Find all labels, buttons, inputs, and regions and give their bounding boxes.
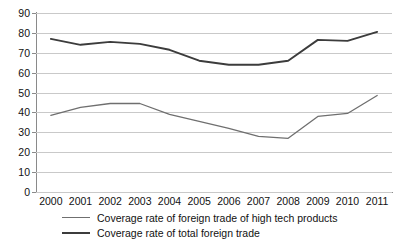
y-tick-label-70: 70: [4, 48, 30, 59]
y-tick-label-10: 10: [4, 167, 30, 178]
y-tick-mark-90: [32, 13, 36, 14]
legend-item-high-tech: Coverage rate of foreign trade of high t…: [62, 210, 400, 225]
y-tick-label-30: 30: [4, 127, 30, 138]
plot-area: [36, 13, 392, 192]
legend-line-swatch-high-tech: [62, 217, 90, 218]
y-tick-label-50: 50: [4, 87, 30, 98]
y-tick-mark-40: [32, 112, 36, 113]
y-tick-label-80: 80: [4, 28, 30, 39]
y-tick-label-20: 20: [4, 147, 30, 158]
y-tick-label-40: 40: [4, 107, 30, 118]
series-line-high-tech: [51, 96, 377, 139]
legend-line-swatch-total-trade: [62, 232, 90, 234]
legend-label-high-tech: Coverage rate of foreign trade of high t…: [97, 212, 337, 224]
y-tick-mark-10: [32, 172, 36, 173]
line-chart: 0102030405060708090 20002001200220032004…: [0, 0, 400, 250]
legend-item-total-trade: Coverage rate of total foreign trade: [62, 225, 400, 240]
y-tick-mark-60: [32, 73, 36, 74]
chart-legend: Coverage rate of foreign trade of high t…: [62, 210, 400, 240]
gridline-0: [36, 192, 392, 193]
y-tick-mark-20: [32, 152, 36, 153]
y-tick-mark-80: [32, 33, 36, 34]
y-tick-mark-50: [32, 93, 36, 94]
y-tick-mark-0: [32, 192, 36, 193]
x-tick-label-2011: 2011: [356, 196, 398, 207]
y-tick-label-90: 90: [4, 8, 30, 19]
y-tick-mark-30: [32, 132, 36, 133]
legend-label-total-trade: Coverage rate of total foreign trade: [97, 227, 260, 239]
y-tick-mark-70: [32, 53, 36, 54]
cutoff-title-sliver: [200, 0, 390, 3]
y-tick-label-60: 60: [4, 67, 30, 78]
y-tick-label-0: 0: [4, 187, 30, 198]
series-line-total-trade: [51, 32, 377, 65]
series-lines-group: [36, 13, 392, 192]
